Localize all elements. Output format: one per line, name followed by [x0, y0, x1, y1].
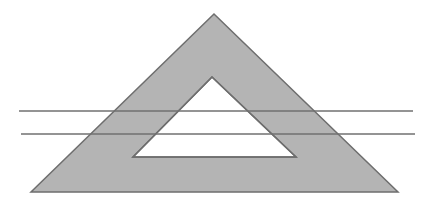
triangle-frame-diagram	[0, 0, 438, 204]
diagram-canvas	[0, 0, 438, 204]
triangular-frame	[31, 14, 398, 192]
